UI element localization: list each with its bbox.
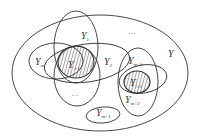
label-Ym+1: Ym+1 bbox=[96, 107, 111, 119]
label-Y2: Y2 bbox=[104, 56, 113, 68]
label-Ym+k: Ym+k bbox=[128, 55, 143, 67]
label-universe-Y: Y bbox=[168, 48, 175, 59]
label-Y1: Y1 bbox=[81, 30, 90, 42]
label-Ym+2: Ym+2 bbox=[125, 94, 140, 106]
ellipsis-top: … bbox=[128, 27, 136, 36]
ellipsis-middle: … bbox=[71, 89, 79, 98]
venn-diagram: Y1 Ym Y∩1 Y2 Ym+k Y∩2 Ym+2 Ym+1 Y … … bbox=[0, 0, 201, 140]
intersection-2-shaded bbox=[124, 71, 150, 93]
label-Ym: Ym bbox=[35, 56, 45, 68]
